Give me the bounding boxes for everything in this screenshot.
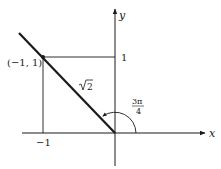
y-tick-label: 1: [121, 52, 127, 63]
x-axis-label: x: [209, 127, 216, 140]
angle-numerator: 3π: [132, 97, 142, 106]
y-axis-label: y: [118, 9, 126, 22]
angle-label: 3π 4: [132, 97, 144, 116]
terminal-ray: [19, 33, 115, 133]
x-tick-label: −1: [36, 137, 51, 148]
diagram-canvas: y x 1 −1 (−1, 1) 2 3π 4: [0, 0, 221, 169]
angle-arc: [103, 112, 136, 133]
radicand: 2: [87, 82, 93, 92]
point-label: (−1, 1): [7, 57, 42, 68]
segment-length-label: 2: [79, 80, 93, 92]
angle-denominator: 4: [136, 107, 141, 116]
